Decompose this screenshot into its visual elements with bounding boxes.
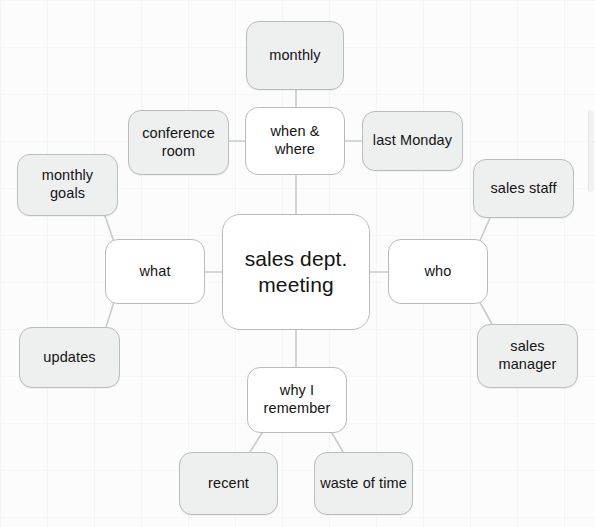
edge-why-i-remember-recent — [250, 433, 262, 452]
node-label: monthly — [269, 47, 320, 65]
node-leaf-monthly[interactable]: monthly — [246, 21, 344, 90]
node-leaf-sales-manager[interactable]: sales manager — [477, 324, 578, 388]
node-label: sales staff — [490, 180, 556, 198]
node-branch-when-where[interactable]: when & where — [245, 107, 345, 175]
node-label: what — [139, 263, 170, 281]
node-center-center[interactable]: sales dept. meeting — [222, 214, 370, 330]
node-label: recent — [208, 475, 249, 493]
node-leaf-waste-of-time[interactable]: waste of time — [314, 452, 413, 515]
mind-map-canvas: sales dept. meetingwhen & wherewhatwhowh… — [0, 0, 595, 527]
node-leaf-updates[interactable]: updates — [19, 327, 120, 388]
node-label: conference room — [142, 125, 215, 160]
node-branch-what[interactable]: what — [105, 239, 205, 304]
node-label: updates — [43, 349, 95, 367]
node-branch-who[interactable]: who — [388, 239, 488, 304]
node-branch-why-i-remember[interactable]: why I remember — [247, 367, 347, 433]
node-label: when & where — [271, 123, 320, 158]
edge-why-i-remember-waste-of-time — [332, 433, 343, 452]
node-label: waste of time — [320, 475, 407, 493]
node-label: why I remember — [264, 382, 331, 417]
scrollbar-sliver[interactable] — [588, 110, 594, 192]
node-label: who — [425, 263, 452, 281]
node-leaf-recent[interactable]: recent — [179, 452, 278, 515]
node-leaf-sales-staff[interactable]: sales staff — [473, 159, 574, 218]
node-label: sales dept. meeting — [245, 246, 348, 297]
node-label: monthly goals — [42, 167, 93, 202]
node-label: sales manager — [499, 338, 557, 373]
node-leaf-monthly-goals[interactable]: monthly goals — [17, 154, 118, 216]
node-leaf-last-monday[interactable]: last Monday — [362, 111, 463, 171]
node-leaf-conference-room[interactable]: conference room — [128, 110, 229, 175]
node-label: last Monday — [373, 132, 452, 150]
